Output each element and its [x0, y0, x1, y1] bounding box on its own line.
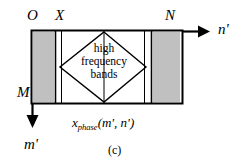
band-label-line-1: high	[58, 42, 150, 55]
m-mark-label: M	[17, 85, 30, 100]
x-mark-label-text: X	[55, 7, 64, 23]
vertical-axis-label: m'	[24, 137, 38, 152]
vertical-axis-label-text: m'	[24, 136, 38, 152]
origin-label: O	[27, 8, 38, 23]
band-label-line-2: frequency	[58, 55, 150, 68]
matrix-name-args: (m', n')	[98, 115, 135, 130]
matrix-name-label: xphase(m', n')	[72, 115, 134, 132]
figure-c-container: O X N M n' m' high frequency bands xphas…	[0, 0, 247, 166]
vertical-axis-arrowhead	[27, 115, 39, 128]
figure-caption: (c)	[108, 143, 121, 158]
figure-caption-text: (c)	[108, 143, 121, 157]
n-mark-label-text: N	[165, 7, 175, 23]
origin-label-text: O	[27, 7, 38, 23]
band-label-line-3: bands	[58, 68, 150, 81]
horizontal-axis-label: n'	[218, 22, 229, 37]
high-frequency-bands-label: high frequency bands	[58, 42, 150, 81]
right-shaded-block	[153, 32, 180, 102]
horizontal-axis-arrowhead	[198, 26, 210, 38]
left-shaded-block	[33, 32, 54, 102]
n-mark-label: N	[165, 8, 175, 23]
m-mark-label-text: M	[17, 84, 30, 100]
matrix-name-subscript: phase	[78, 122, 98, 132]
x-mark-label: X	[55, 8, 64, 23]
horizontal-axis-label-text: n'	[218, 21, 229, 37]
